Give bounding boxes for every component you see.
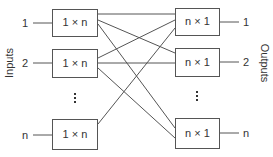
output-switch-n: n × 1 <box>176 119 220 149</box>
input-port-label-2: 2 <box>22 57 28 69</box>
output-port-label-n: n <box>243 127 249 139</box>
input-port-label-n: n <box>22 129 28 141</box>
output-ellipsis-icon <box>196 91 198 101</box>
outputs-label: Outputs <box>259 44 271 83</box>
svg-text:1 × n: 1 × n <box>63 128 88 140</box>
switch-fabric-diagram: 1 × n 1 × n 1 × n n × 1 n × 1 n × 1 1 2 … <box>0 0 273 157</box>
output-port-label-2: 2 <box>243 56 249 68</box>
input-switch-1: 1 × n <box>53 10 98 37</box>
output-port-label-1: 1 <box>243 16 249 28</box>
input-switch-2: 1 × n <box>53 50 98 78</box>
svg-text:1 × n: 1 × n <box>63 57 88 69</box>
svg-text:n × 1: n × 1 <box>185 127 210 139</box>
output-switch-2: n × 1 <box>176 49 220 77</box>
svg-text:n × 1: n × 1 <box>185 15 210 27</box>
interconnect-wires <box>98 14 175 138</box>
output-switch-1: n × 1 <box>176 9 220 36</box>
input-port-lines <box>33 23 52 135</box>
output-port-lines <box>220 22 239 133</box>
svg-text:1 × n: 1 × n <box>63 16 88 28</box>
input-ellipsis-icon <box>74 93 76 103</box>
input-port-label-1: 1 <box>22 17 28 29</box>
input-switch-n: 1 × n <box>53 120 98 150</box>
inputs-label: Inputs <box>3 48 15 78</box>
svg-text:n × 1: n × 1 <box>185 56 210 68</box>
